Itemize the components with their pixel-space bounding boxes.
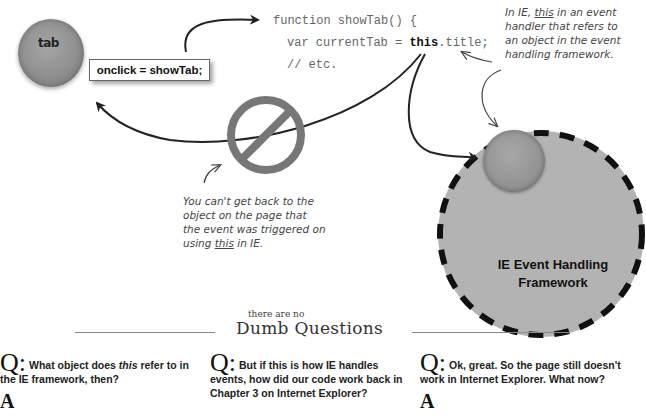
code-var-decl: var currentTab = [287,36,409,50]
a-mark: A [420,394,630,408]
header-rule-right [412,332,570,333]
annotation-ie-this: In IE, this in an event handler that ref… [505,5,645,61]
annotation-text: In IE, [505,6,535,18]
annotation-line: the event was triggered on [183,222,353,236]
annotation-cannot-get-back: You can't get back to the object on the … [183,194,353,250]
question-2: Q:But if this is how IE handles events, … [210,356,415,400]
annotation-line: handler that refers to [505,19,645,33]
tab-object-sphere [18,19,84,87]
question-text: But if this is how IE handles events, ho… [210,359,403,399]
header-rule-left [75,332,215,333]
question-emphasis: this [119,359,138,371]
annotation-text: in IE. [234,237,263,249]
annotation-line: You can't get back to the [183,194,353,208]
code-line-1: function showTab() { [273,14,417,28]
annotation-line: handling framework. [505,47,645,61]
code-title-prop: .title; [438,36,488,50]
annotation-keyword: this [535,6,554,18]
code-line-2: var currentTab = this.title; [287,36,489,50]
tab-object-label: tab [38,36,59,50]
a-mark: A [0,394,205,408]
annotation-line: In IE, this in an event [505,5,645,19]
framework-label-line-2: Framework [478,274,628,292]
question-3: Q:Ok, great. So the page still doesn't w… [420,356,630,408]
this-keyword: this [409,36,438,50]
question-text: What object does [29,359,119,371]
annotation-line: an object in the event [505,33,645,47]
code-line-3: // etc. [287,58,337,72]
onclick-handler-box: onclick = showTab; [89,59,210,81]
header-dumb-questions: Dumb Questions [236,318,383,338]
annotation-keyword: this [215,237,234,249]
annotation-text: using [183,237,215,249]
question-text: Ok, great. So the page still doesn't wor… [420,359,621,385]
framework-label-line-1: IE Event Handling [478,256,628,274]
framework-label: IE Event Handling Framework [478,256,628,292]
annotation-line: object on the page that [183,208,353,222]
question-1: Q:What object does this refer to in the … [0,356,205,408]
annotation-line: using this in IE. [183,236,353,250]
annotation-text: in an event [554,6,617,18]
framework-object-sphere [483,130,545,192]
